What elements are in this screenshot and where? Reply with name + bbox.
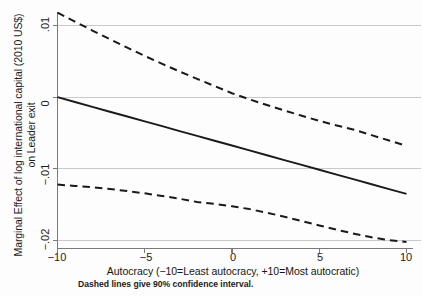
tick-marks [53, 26, 407, 254]
gridlines [58, 26, 422, 241]
series-line-1 [58, 13, 407, 146]
series-line-2 [58, 185, 407, 242]
figure-container: Marginal Effect of log international cap… [0, 0, 423, 296]
plot-area [0, 0, 423, 296]
axis-lines [57, 12, 414, 249]
data-series-group [58, 13, 407, 242]
series-line-0 [58, 97, 407, 194]
